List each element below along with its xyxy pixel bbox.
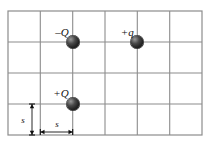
charge-positive-q-label: +q <box>121 26 134 38</box>
charge-positive-Q <box>66 98 79 111</box>
dimension-arrowhead-left <box>40 130 44 134</box>
dimension-arrows <box>29 104 73 135</box>
horizontal-spacing-label: s <box>55 119 59 129</box>
vertical-spacing-label: s <box>21 115 25 125</box>
charge-negative-Q-label: –Q <box>55 26 69 38</box>
charge-grid-figure: –Q+q+Q ss <box>0 0 212 146</box>
dimension-arrowhead-down <box>30 131 34 135</box>
dimension-arrowhead-up <box>30 104 34 108</box>
grid-canvas <box>0 0 212 146</box>
dimension-arrowhead-right <box>69 130 73 134</box>
charge-positive-Q-label: +Q <box>53 87 69 99</box>
